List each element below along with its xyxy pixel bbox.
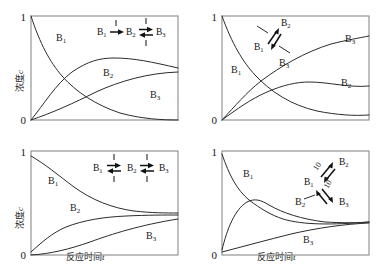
y-tick-bottom: 0 (212, 114, 218, 126)
reaction-scheme: B2 B1 B3 10 10 (304, 157, 349, 208)
scheme-node-b2: B2 (126, 27, 136, 38)
panel-top-left: 1 0 B1 B2 B3 B1 B2 B3 (0, 0, 190, 136)
curve-label-b2: B2 (341, 77, 352, 90)
y-tick-top: 1 (212, 146, 218, 158)
curve-label-b3: B3 (150, 89, 161, 102)
curve-label-b1-lower: B1 (231, 64, 242, 77)
curve-label-b1: B1 (56, 32, 67, 45)
scheme-node-b1: B1 (93, 163, 103, 174)
curve-b2 (31, 215, 178, 252)
y-tick-top: 1 (212, 11, 218, 23)
panel-bottom-left: 1 0 B1 B2 B3 B1 B2 B3 (0, 137, 190, 273)
arrow-head-2r (139, 32, 145, 38)
y-tick-top: 1 (21, 146, 27, 158)
curve-label-b1: B1 (48, 175, 59, 188)
y-tick-top: 1 (21, 11, 27, 23)
scheme-node-b1: B1 (254, 42, 264, 53)
arrow-head-2r (140, 168, 146, 174)
y-tick-bottom: 0 (21, 114, 27, 126)
arrow-head-1r (107, 168, 113, 174)
curve-label-b2: B2 (70, 202, 81, 215)
panel-bottom-right: 1 0 B1 B2 B3 B2 B1 B3 10 (191, 137, 381, 273)
curve-label-b1: B1 (243, 168, 254, 181)
y-tick-bottom: 0 (212, 249, 218, 261)
kinetics-figure: 浓度c 浓度c 反应时间t 反应时间t 1 0 B1 B2 B3 B1 B2 B… (0, 0, 381, 273)
scheme-node-b3: B3 (339, 197, 349, 208)
panel-top-right: 1 0 B1 B2 B3 B3 B2 B1 (191, 0, 381, 136)
scheme-node-b2: B2 (281, 18, 291, 29)
curve-b3 (222, 223, 369, 252)
scheme-node-b3: B3 (159, 163, 169, 174)
curve-label-b3: B3 (146, 230, 157, 243)
scheme-node-b2: B2 (339, 157, 349, 168)
tick-stroke-lower (279, 46, 290, 53)
scheme-node-b3: B3 (156, 27, 166, 38)
arrow-head-1 (118, 29, 124, 35)
reaction-scheme: B1 B2 B3 (93, 154, 169, 182)
reaction-scheme: B2 B1 (254, 18, 291, 53)
curve-label-b2: B2 (295, 196, 306, 209)
curve-b1 (222, 16, 369, 115)
y-tick-bottom: 0 (21, 249, 27, 261)
tick-stroke-lower (304, 195, 315, 199)
rate-label-down: 10 (322, 179, 334, 190)
reaction-scheme: B1 B2 B3 (97, 18, 166, 46)
arrow-head-2f (147, 27, 153, 33)
tick-stroke-upper (257, 26, 268, 33)
curve-label-b3: B3 (345, 33, 356, 46)
scheme-node-b1: B1 (97, 27, 107, 38)
curve-label-b3: B3 (303, 234, 314, 247)
arrow-head-2f (148, 163, 154, 169)
curve-label-b2: B2 (103, 67, 114, 80)
arrow-head-1f (115, 163, 121, 169)
rate-label-up: 10 (311, 160, 323, 172)
scheme-node-b1: B1 (304, 177, 314, 188)
scheme-node-b2: B2 (127, 163, 137, 174)
